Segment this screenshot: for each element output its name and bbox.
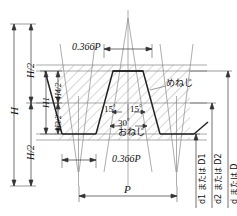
dimension-label-offset-top: 0.366P <box>72 42 101 52</box>
angle-label-right-flank: 15° <box>130 104 142 114</box>
diameter-label-pitch: d2 または D2 <box>215 153 223 204</box>
degree-symbol-right: ° <box>139 103 142 110</box>
dimension-label-H-half-bottom: H/2 <box>26 145 36 160</box>
degree-symbol-left: ° <box>113 103 116 110</box>
dimension-label-H: H <box>9 107 20 115</box>
label-external-thread: おねじ <box>118 128 145 137</box>
dimension-label-H-half-top: H/2 <box>26 63 36 78</box>
right-diameter-dimensions <box>190 71 232 208</box>
bottom-offset-dimension <box>62 154 96 168</box>
dimension-label-pitch: P <box>124 184 131 195</box>
diameter-label-major: d または D <box>231 164 237 204</box>
thread-profile-diagram: H H/2 H/2 H1 H4/2 H3/2 0.366P 0.366P P 1… <box>0 0 237 216</box>
dimension-label-H3-half: H3/2 <box>55 115 63 131</box>
label-internal-thread: めねじ <box>166 79 193 88</box>
dimension-label-H4-half: H4/2 <box>55 83 63 99</box>
dimension-label-offset-bottom: 0.366P <box>112 154 141 164</box>
diameter-label-minor: d1 または D1 <box>199 153 207 204</box>
degree-symbol-included: ° <box>127 117 130 124</box>
dimension-label-H1: H1 <box>42 97 51 108</box>
angle-label-left-flank: 15° <box>104 104 116 114</box>
